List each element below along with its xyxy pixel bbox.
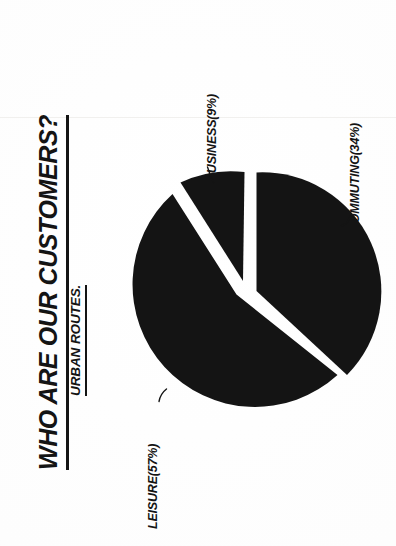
page-title: WHO ARE OUR CUSTOMERS? bbox=[34, 115, 69, 470]
pie-label-leisure: LEISURE(57%) bbox=[146, 444, 160, 529]
pie-label-commuting: COMMUTING(34%) bbox=[348, 123, 362, 232]
leader-line-leisure bbox=[159, 389, 167, 402]
page-subtitle: URBAN ROUTES. bbox=[68, 285, 87, 396]
scanned-page: WHO ARE OUR CUSTOMERS? URBAN ROUTES. BUS… bbox=[0, 0, 396, 546]
pie-label-business: BUSINESS(9%) bbox=[205, 94, 219, 182]
